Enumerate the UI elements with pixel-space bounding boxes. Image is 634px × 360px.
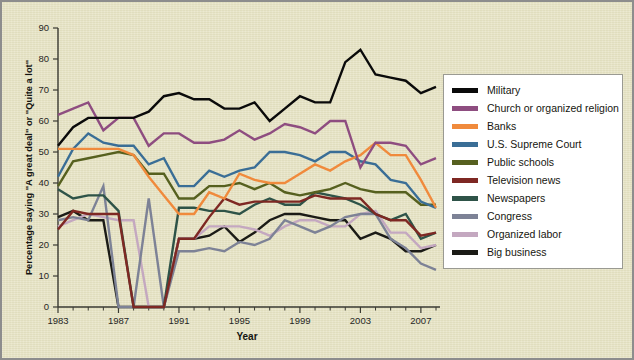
chart-legend: MilitaryChurch or organized religionBank…: [443, 74, 623, 269]
series-line-military: [58, 50, 436, 146]
chart-figure: 0102030405060708090198319871991199519992…: [0, 0, 634, 360]
series-line-public-schools: [58, 152, 436, 205]
legend-item-label: Big business: [487, 247, 547, 258]
legend-item[interactable]: Public schools: [452, 153, 614, 171]
legend-item[interactable]: Church or organized religion: [452, 99, 614, 117]
legend-color-swatch: [452, 196, 478, 201]
legend-item[interactable]: Congress: [452, 207, 614, 225]
legend-item-label: U.S. Supreme Court: [487, 139, 582, 150]
legend-item-label: Public schools: [487, 157, 554, 168]
y-tick-label: 30: [38, 208, 49, 219]
legend-item[interactable]: U.S. Supreme Court: [452, 135, 614, 153]
legend-item-label: Banks: [487, 121, 516, 132]
legend-color-swatch: [452, 124, 478, 129]
legend-item[interactable]: Television news: [452, 171, 614, 189]
legend-item[interactable]: Newspapers: [452, 189, 614, 207]
legend-item[interactable]: Big business: [452, 243, 614, 261]
legend-color-swatch: [452, 160, 478, 165]
legend-color-swatch: [452, 178, 478, 183]
legend-color-swatch: [452, 214, 478, 219]
y-tick-label: 50: [38, 146, 49, 157]
legend-item[interactable]: Military: [452, 81, 614, 99]
legend-item[interactable]: Organized labor: [452, 225, 614, 243]
y-tick-label: 0: [44, 301, 49, 312]
x-tick-label: 2003: [350, 315, 371, 326]
series-line-church-or-organized-religion: [58, 102, 436, 167]
x-axis-title: Year: [236, 331, 257, 342]
y-tick-label: 10: [38, 270, 49, 281]
legend-item-label: Television news: [487, 175, 561, 186]
x-tick-label: 1991: [168, 315, 189, 326]
legend-item-label: Newspapers: [487, 193, 545, 204]
y-tick-label: 90: [38, 22, 49, 33]
y-tick-label: 80: [38, 53, 49, 64]
legend-color-swatch: [452, 106, 478, 111]
x-tick-label: 1983: [47, 315, 68, 326]
series-line-big-business: [58, 211, 436, 307]
legend-color-swatch: [452, 250, 478, 255]
x-tick-label: 1987: [108, 315, 129, 326]
legend-color-swatch: [452, 142, 478, 147]
legend-item-label: Military: [487, 85, 520, 96]
y-tick-label: 70: [38, 84, 49, 95]
legend-item-label: Congress: [487, 211, 532, 222]
legend-color-swatch: [452, 88, 478, 93]
legend-color-swatch: [452, 232, 478, 237]
legend-item[interactable]: Banks: [452, 117, 614, 135]
y-tick-label: 20: [38, 239, 49, 250]
x-tick-label: 1995: [229, 315, 250, 326]
legend-item-label: Church or organized religion: [487, 103, 619, 114]
x-tick-label: 2007: [410, 315, 431, 326]
y-axis-title: Percentage saying "A great deal" or "Qui…: [24, 60, 34, 275]
y-tick-label: 40: [38, 177, 49, 188]
y-tick-label: 60: [38, 115, 49, 126]
series-line-organized-labor: [58, 211, 436, 307]
legend-item-label: Organized labor: [487, 229, 562, 240]
x-tick-label: 1999: [289, 315, 310, 326]
